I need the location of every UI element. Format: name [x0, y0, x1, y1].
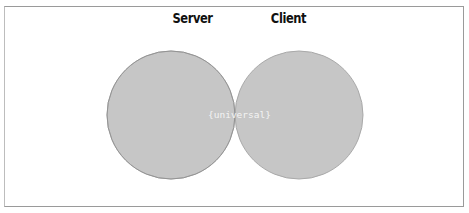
server-label: Server [172, 10, 212, 26]
client-label: Client [271, 10, 306, 26]
venn-diagram [0, 0, 469, 213]
universal-label: {universal} [208, 109, 271, 120]
